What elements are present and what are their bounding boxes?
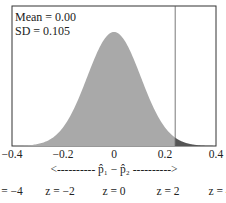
stats-annotation: Mean = 0.00 SD = 0.105 [15,10,76,38]
x-axis-label: <---------- p̂₁ − p̂₂ ----------> [50,163,177,175]
x-tick-neg-0.2: −0.2 [53,148,74,160]
x-tick-0: 0 [111,148,117,160]
mean-label: Mean = 0.00 [15,10,76,24]
z-tick-neg-4: z = −4 [0,185,23,197]
z-tick-2: z = 2 [156,185,179,197]
z-tick-0: z = 0 [102,185,125,197]
z-tick-4: z = 4 [208,185,226,197]
x-tick-neg-0.4: −0.4 [2,148,23,160]
x-tick-0.4: 0.4 [209,148,223,160]
z-tick-neg-2: z = −2 [45,185,75,197]
sd-label: SD = 0.105 [15,24,76,38]
x-tick-0.2: 0.2 [158,148,172,160]
